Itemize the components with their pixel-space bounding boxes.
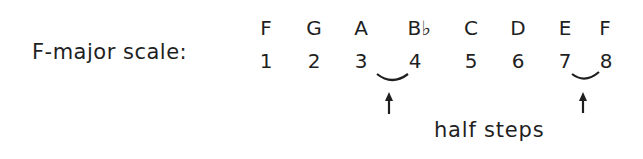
- half-step-marks: [0, 0, 643, 159]
- slur-icon: [377, 74, 408, 80]
- up-arrow-icon: [385, 92, 393, 114]
- up-arrow-icon: [579, 92, 587, 113]
- slur-icon: [572, 72, 599, 79]
- half-steps-caption: half steps: [434, 118, 544, 142]
